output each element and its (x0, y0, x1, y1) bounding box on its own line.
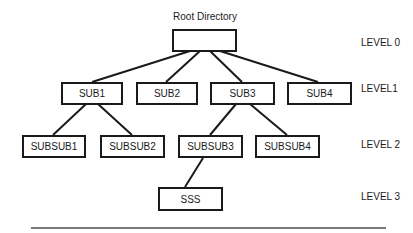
node-subsub3: SUBSUB3 (178, 135, 243, 158)
edge-sub3-subsub3 (210, 104, 236, 135)
node-sub3: SUB3 (210, 82, 275, 105)
node-sub1: SUB1 (61, 82, 123, 105)
directory-tree-diagram: Root Directory SUB1 SUB2 SUB3 SUB4 SUBSU… (0, 0, 413, 233)
edge-root-sub1 (92, 51, 190, 82)
level-3-label: LEVEL 3 (361, 191, 400, 202)
root-directory-label: Root Directory (171, 11, 239, 22)
edge-sub1-subsub1 (53, 104, 86, 135)
node-root (172, 29, 237, 52)
node-subsub4: SUBSUB4 (255, 135, 320, 158)
node-subsub2: SUBSUB2 (100, 135, 165, 158)
bottom-divider (31, 227, 386, 229)
edge-sub3-subsub4 (250, 104, 287, 135)
level-0-label: LEVEL 0 (361, 37, 400, 48)
level-1-label: LEVEL1 (361, 83, 398, 94)
edge-root-sub4 (220, 51, 318, 82)
edge-root-sub2 (166, 51, 200, 82)
edge-sub1-subsub2 (98, 104, 132, 135)
node-sss: SSS (158, 187, 223, 211)
node-sub2: SUB2 (136, 82, 198, 105)
node-sub4: SUB4 (287, 82, 352, 105)
node-subsub1: SUBSUB1 (22, 135, 86, 158)
edge-subsub3-sss (185, 158, 203, 187)
level-2-label: LEVEL 2 (361, 139, 400, 150)
